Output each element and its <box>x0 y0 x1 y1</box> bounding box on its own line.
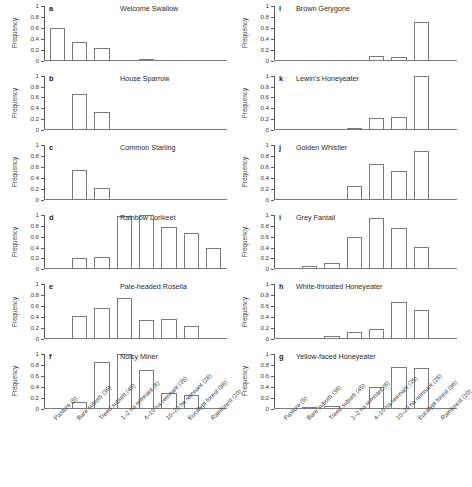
y-tick-label: 0.2 <box>260 325 269 331</box>
y-tick-label: 0.2 <box>260 116 269 122</box>
panel-column-right: Frequency00.20.40.60.81lBrown GerygoneFr… <box>230 0 459 418</box>
panel-title: Rainbow Lorikeet <box>120 213 176 222</box>
y-axis-label: Frequency <box>11 18 18 48</box>
y-tick-label: 0.8 <box>30 153 39 159</box>
bar-slot <box>276 215 298 270</box>
y-axis-label: Frequency <box>11 227 18 257</box>
y-axis-k: Frequency00.20.40.60.81 <box>230 76 274 131</box>
panel-letter: h <box>279 282 284 291</box>
y-tick-label: 0.2 <box>260 186 269 192</box>
panel-title: Yellow-faced Honeyeater <box>296 352 376 361</box>
plot-area <box>276 6 455 61</box>
y-tick-label: 0.8 <box>260 83 269 89</box>
y-tick-mark <box>271 61 274 62</box>
chart-panel-b: Frequency00.20.40.60.81bHouse Sparrow <box>0 70 229 140</box>
panel-title: Noisy Miner <box>120 352 158 361</box>
y-axis-h: Frequency00.20.40.60.81 <box>230 284 274 339</box>
chart-panel-c: Frequency00.20.40.60.81cCommon Starling <box>0 139 229 209</box>
bar <box>302 266 317 270</box>
panel-letter: f <box>49 352 51 361</box>
y-axis-label: Frequency <box>241 227 248 257</box>
y-tick-label: 0.2 <box>30 47 39 53</box>
bar <box>117 298 132 339</box>
y-tick-label: 0.8 <box>260 153 269 159</box>
bar-slot <box>433 284 455 339</box>
bar-slot <box>366 215 388 270</box>
y-tick-label: 0.8 <box>260 14 269 20</box>
panel-letter: i <box>279 213 281 222</box>
y-axis-label: Frequency <box>241 18 248 48</box>
y-tick-label: 0 <box>36 127 39 133</box>
bar-slot <box>343 6 365 61</box>
bar-slot <box>91 6 113 61</box>
y-axis-label: Frequency <box>241 297 248 327</box>
bar-slot <box>433 6 455 61</box>
y-tick-label: 0.4 <box>30 314 39 320</box>
bar <box>184 233 199 270</box>
bar-slot <box>180 6 202 61</box>
y-tick-mark <box>41 200 44 201</box>
panel-title: Pale-headed Rosella <box>120 282 187 291</box>
bar-slot <box>343 145 365 200</box>
bar-slot <box>46 284 68 339</box>
bar-series <box>46 145 225 200</box>
y-axis-line <box>44 215 45 270</box>
y-tick-label: 0.6 <box>260 234 269 240</box>
y-tick-label: 0 <box>266 197 269 203</box>
bar-slot <box>180 215 202 270</box>
panel-letter: l <box>279 4 281 13</box>
panel-letter: a <box>49 4 53 13</box>
bar <box>414 151 429 200</box>
y-axis-line <box>274 145 275 200</box>
bar-slot <box>276 354 298 409</box>
bar-slot <box>321 6 343 61</box>
panel-letter: d <box>49 213 54 222</box>
bar-slot <box>410 284 432 339</box>
y-axis-a: Frequency00.20.40.60.81 <box>0 6 44 61</box>
bar-slot <box>68 215 90 270</box>
bar-slot <box>136 215 158 270</box>
bar-slot <box>366 145 388 200</box>
bar <box>72 94 87 131</box>
bar <box>391 117 406 131</box>
bar-slot <box>113 6 135 61</box>
panel-letter: g <box>279 352 284 361</box>
plot-area <box>46 76 225 131</box>
bar-slot <box>158 6 180 61</box>
bar-slot <box>298 215 320 270</box>
bar-slot <box>366 76 388 131</box>
bar-slot <box>113 284 135 339</box>
bar-slot <box>433 145 455 200</box>
bar-slot <box>388 284 410 339</box>
bar <box>391 302 406 339</box>
bar-slot <box>410 145 432 200</box>
plot-area <box>276 284 455 339</box>
y-tick-label: 1 <box>36 3 39 9</box>
y-tick-label: 0.4 <box>30 384 39 390</box>
bar-series <box>276 6 455 61</box>
bar-slot <box>180 76 202 131</box>
y-axis-label: Frequency <box>11 88 18 118</box>
y-tick-label: 0.4 <box>260 36 269 42</box>
bar-slot <box>203 284 225 339</box>
panel-column-left: Frequency00.20.40.60.81aWelcome SwallowF… <box>0 0 229 418</box>
y-axis-e: Frequency00.20.40.60.81 <box>0 284 44 339</box>
bar-slot <box>113 215 135 270</box>
bar-slot <box>433 76 455 131</box>
panel-letter: b <box>49 74 54 83</box>
y-axis-f: Frequency00.20.40.60.81 <box>0 354 44 409</box>
chart-panel-j: Frequency00.20.40.60.81jGolden Whistler <box>230 139 459 209</box>
y-tick-label: 0.2 <box>260 395 269 401</box>
y-tick-mark <box>271 130 274 131</box>
panel-letter: j <box>279 143 281 152</box>
y-tick-mark <box>41 130 44 131</box>
plot-area <box>46 215 225 270</box>
y-tick-mark <box>41 269 44 270</box>
chart-panel-d: Frequency00.20.40.60.81dRainbow Lorikeet <box>0 209 229 279</box>
bar <box>369 118 384 130</box>
y-axis-label: Frequency <box>11 297 18 327</box>
plot-area <box>46 145 225 200</box>
bar-slot <box>46 354 68 409</box>
bar <box>94 257 109 269</box>
